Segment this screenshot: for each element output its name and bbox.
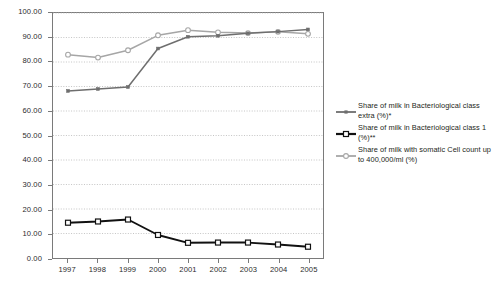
data-point-marker	[306, 31, 311, 36]
legend-item-extra: Share of milk in Bacteriological class e…	[336, 101, 498, 120]
y-axis-tick-label: 100.00	[18, 8, 42, 16]
data-point-marker	[97, 88, 100, 91]
y-axis-tick-label: 80.00	[22, 57, 42, 65]
x-axis-tick-mark	[158, 259, 159, 263]
x-axis-tick-label: 1997	[58, 265, 75, 274]
x-axis-tick-mark	[218, 259, 219, 263]
x-axis-labels: 199719981999200020012002200320042005	[52, 265, 324, 279]
data-point-marker	[126, 48, 131, 53]
legend-label: Share of milk in Bacteriological class e…	[358, 101, 498, 120]
data-point-marker	[156, 232, 161, 237]
y-axis-tick-label: 60.00	[22, 107, 42, 115]
data-point-marker	[276, 242, 281, 247]
legend-marker-icon	[336, 125, 356, 135]
x-axis-tick-label: 2003	[240, 265, 257, 274]
data-point-marker	[157, 47, 160, 50]
data-point-marker	[96, 55, 101, 60]
data-point-marker	[186, 28, 191, 33]
x-axis-tick-label: 2004	[270, 265, 287, 274]
data-point-marker	[127, 86, 130, 89]
data-point-marker	[307, 28, 310, 31]
y-axis-tick-label: 20.00	[22, 206, 42, 214]
x-axis-tick-label: 2005	[300, 265, 317, 274]
data-point-marker	[187, 35, 190, 38]
y-axis-tick-label: 90.00	[22, 33, 42, 41]
x-axis-tick-mark	[309, 259, 310, 263]
data-point-marker	[217, 34, 220, 37]
legend-item-class1: Share of milk in Bacteriological class 1…	[336, 123, 498, 142]
x-axis-tick-mark	[279, 259, 280, 263]
legend-label: Share of milk in Bacteriological class 1…	[358, 123, 498, 142]
legend-marker-icon	[336, 147, 356, 157]
x-axis-tick-label: 1998	[89, 265, 106, 274]
line-chart: 0.0010.0020.0030.0040.0050.0060.0070.008…	[0, 0, 500, 293]
data-point-marker	[216, 240, 221, 245]
data-point-marker	[246, 240, 251, 245]
y-axis-labels: 0.0010.0020.0030.0040.0050.0060.0070.008…	[0, 12, 48, 259]
data-point-marker	[126, 217, 131, 222]
legend-marker-icon	[336, 103, 356, 113]
data-point-marker	[66, 52, 71, 57]
y-axis-tick-mark	[48, 259, 52, 260]
legend-item-somatic: Share of milk with somatic Cell count up…	[336, 145, 498, 164]
x-axis-tick-mark	[128, 259, 129, 263]
data-point-marker	[96, 219, 101, 224]
data-point-marker	[306, 244, 311, 249]
plot-svg	[53, 13, 323, 258]
y-axis-tick-label: 10.00	[22, 230, 42, 238]
chart-legend: Share of milk in Bacteriological class e…	[336, 101, 498, 168]
series-line	[68, 30, 308, 57]
data-point-marker	[277, 30, 280, 33]
x-axis-tick-mark	[67, 259, 68, 263]
x-axis-tick-mark	[188, 259, 189, 263]
data-point-marker	[216, 30, 221, 35]
plot-area	[52, 12, 324, 259]
x-axis-tick-mark	[97, 259, 98, 263]
y-axis-tick-label: 30.00	[22, 181, 42, 189]
y-axis-tick-label: 0.00	[27, 255, 42, 263]
series-line	[68, 29, 308, 90]
data-point-marker	[186, 240, 191, 245]
data-point-marker	[247, 32, 250, 35]
x-axis-tick-label: 1999	[119, 265, 136, 274]
data-point-marker	[67, 90, 70, 93]
legend-label: Share of milk with somatic Cell count up…	[358, 145, 498, 164]
x-axis-tick-mark	[248, 259, 249, 263]
x-axis-tick-label: 2002	[210, 265, 227, 274]
x-axis-tick-label: 2000	[149, 265, 166, 274]
x-axis-tick-label: 2001	[179, 265, 196, 274]
y-axis-tick-label: 40.00	[22, 156, 42, 164]
data-point-marker	[66, 220, 71, 225]
y-axis-tick-label: 50.00	[22, 132, 42, 140]
data-point-marker	[156, 33, 161, 38]
y-axis-tick-label: 70.00	[22, 82, 42, 90]
